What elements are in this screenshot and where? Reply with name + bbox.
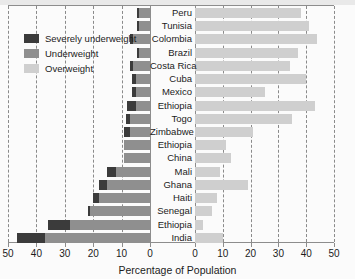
- bar-left-underweight: [99, 180, 150, 190]
- chart-row: Peru: [8, 6, 334, 20]
- x-tick-right-50-mark: [334, 243, 335, 247]
- bar-left-underweight: [137, 21, 150, 31]
- bar-segment-underweight: [136, 87, 150, 97]
- x-tick-right-20-mark: [251, 243, 252, 247]
- x-tick-right-30-mark: [278, 243, 279, 247]
- chart-row: Haiti: [8, 191, 334, 205]
- x-tick-right-0-mark: [195, 243, 196, 247]
- legend-item-overweight: Overweight: [24, 61, 144, 75]
- bar-segment-underweight: [124, 153, 150, 163]
- bar-left-underweight: [132, 87, 150, 97]
- bar-right-overweight: [195, 180, 248, 190]
- x-tick-left-40-mark: [36, 243, 37, 247]
- bar-right-overweight: [195, 114, 292, 124]
- bar-segment-underweight: [139, 8, 150, 18]
- chart-legend: Severely underweight Underweight Overwei…: [24, 31, 144, 76]
- bar-segment-underweight: [99, 193, 150, 203]
- row-label-zimbabwe: Zimbabwe: [150, 125, 192, 139]
- x-tick-left-0: 0: [147, 248, 153, 259]
- x-tick-left-30-mark: [65, 243, 66, 247]
- legend-swatch-severely-underweight: [24, 34, 39, 43]
- bar-segment-underweight: [45, 233, 150, 243]
- bar-right-overweight: [195, 87, 265, 97]
- bar-segment-severely-underweight: [127, 101, 136, 111]
- bar-right-overweight: [195, 127, 253, 137]
- bar-right-overweight: [195, 140, 226, 150]
- bar-left-underweight: [124, 140, 150, 150]
- bar-right-overweight: [195, 233, 223, 243]
- x-tick-right-40: 40: [301, 248, 312, 259]
- row-label-senegal: Senegal: [150, 204, 192, 218]
- chart-row: Ghana: [8, 178, 334, 192]
- row-label-ethiopia: Ethiopia: [150, 138, 192, 152]
- bar-segment-severely-underweight: [99, 180, 108, 190]
- legend-label-severely-underweight: Severely underweight: [45, 33, 136, 44]
- chart-row: China: [8, 151, 334, 165]
- gridline-right-50: [334, 6, 335, 242]
- chart-row: Ethiopia: [8, 138, 334, 152]
- legend-label-underweight: Underweight: [45, 48, 98, 59]
- legend-label-overweight: Overweight: [45, 63, 93, 74]
- x-tick-right-10-mark: [223, 243, 224, 247]
- legend-swatch-overweight: [24, 64, 39, 73]
- bar-segment-underweight: [139, 21, 150, 31]
- bar-left-underweight: [124, 127, 150, 137]
- bar-right-overweight: [195, 167, 220, 177]
- x-tick-left-40: 40: [31, 248, 42, 259]
- x-tick-right-0: 0: [192, 248, 198, 259]
- bar-segment-underweight: [116, 167, 150, 177]
- row-label-india: India: [150, 231, 192, 245]
- x-axis-label: Percentage of Population: [0, 264, 355, 276]
- bar-left-underweight: [17, 233, 150, 243]
- bar-right-overweight: [195, 193, 217, 203]
- x-tick-left-20-mark: [93, 243, 94, 247]
- row-label-mexico: Mexico: [150, 85, 192, 99]
- bar-left-underweight: [93, 193, 150, 203]
- bar-segment-underweight: [130, 127, 150, 137]
- row-label-ethiopia: Ethiopia: [150, 99, 192, 113]
- legend-swatch-underweight: [24, 49, 39, 58]
- x-tick-right-20: 20: [245, 248, 256, 259]
- row-label-brazil: Brazil: [150, 46, 192, 60]
- bar-right-overweight: [195, 220, 203, 230]
- row-label-china: China: [150, 151, 192, 165]
- row-label-mali: Mali: [150, 165, 192, 179]
- chart-row: Ethiopia: [8, 218, 334, 232]
- legend-item-underweight: Underweight: [24, 46, 144, 60]
- bar-segment-underweight: [124, 140, 150, 150]
- bar-segment-severely-underweight: [107, 167, 116, 177]
- chart-row: Mali: [8, 165, 334, 179]
- row-label-peru: Peru: [150, 6, 192, 20]
- x-axis-tick-labels: 5040302010001020304050: [0, 248, 355, 262]
- chart-row: Ethiopia: [8, 99, 334, 113]
- bar-segment-severely-underweight: [48, 220, 71, 230]
- chart-row: Senegal: [8, 204, 334, 218]
- bar-segment-underweight: [130, 114, 150, 124]
- bar-segment-underweight: [136, 101, 150, 111]
- bar-left-underweight: [137, 8, 150, 18]
- row-label-cuba: Cuba: [150, 72, 192, 86]
- x-tick-right-30: 30: [273, 248, 284, 259]
- row-label-ethiopia: Ethiopia: [150, 218, 192, 232]
- row-label-costa-rica: Costa Rica: [150, 59, 192, 73]
- bar-right-overweight: [195, 74, 306, 84]
- row-label-tunisia: Tunisia: [150, 19, 192, 33]
- x-tick-left-10: 10: [116, 248, 127, 259]
- x-tick-left-10-mark: [122, 243, 123, 247]
- x-tick-left-30: 30: [59, 248, 70, 259]
- bar-segment-underweight: [90, 206, 150, 216]
- x-tick-left-0-mark: [150, 243, 151, 247]
- row-label-togo: Togo: [150, 112, 192, 126]
- bar-left-underweight: [48, 220, 150, 230]
- bar-left-underweight: [127, 101, 150, 111]
- bar-right-overweight: [195, 48, 298, 58]
- bar-segment-underweight: [70, 220, 150, 230]
- x-tick-left-20: 20: [88, 248, 99, 259]
- bar-right-overweight: [195, 8, 301, 18]
- x-tick-left-50: 50: [2, 248, 13, 259]
- chart-row: Zimbabwe: [8, 125, 334, 139]
- x-tick-left-50-mark: [8, 243, 9, 247]
- row-label-haiti: Haiti: [150, 191, 192, 205]
- x-tick-right-40-mark: [306, 243, 307, 247]
- bar-left-underweight: [124, 153, 150, 163]
